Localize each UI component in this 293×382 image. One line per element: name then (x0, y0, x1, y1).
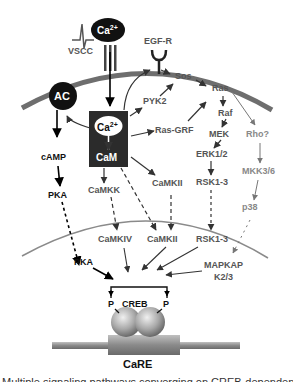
pka-nuclear-label: PKA (74, 258, 93, 267)
raf-label: Raf (218, 109, 233, 118)
cam-label: CaM (96, 153, 117, 163)
camp-label: cAMP (41, 153, 66, 162)
ca-intracellular-text: Ca (97, 122, 110, 133)
p38-label: p38 (242, 203, 258, 212)
rsk-cytoplasm-label: RSK1-3 (196, 178, 228, 187)
ras-grf-label: Ras-GRF (155, 126, 194, 135)
camkiv-label: CaMKIV (98, 235, 132, 244)
ca-extracellular-text: Ca (97, 25, 110, 36)
creb-label: CREB (122, 300, 148, 309)
ras-label: Ras (212, 84, 229, 93)
erk-label: ERK1/2 (196, 150, 228, 159)
vscc-spike-icon (72, 24, 94, 48)
vscc-label: VSCC (68, 47, 93, 56)
ca-intracellular-label: Ca2+ (97, 121, 118, 133)
sos-label: Sos (175, 72, 192, 81)
creb-signaling-diagram: VSCC Ca2+ EGF-R AC Ca2+ CaM cAMP PKA PYK… (0, 0, 293, 382)
ac-label: AC (54, 91, 70, 102)
care-label: CaRE (123, 359, 152, 370)
ca-intracellular-charge: 2+ (110, 121, 118, 128)
phospho-left-label: P (108, 300, 114, 309)
phosphorylation-bracket (111, 287, 167, 298)
egfr-label: EGF-R (144, 37, 172, 46)
mkk-label: MKK3/6 (242, 167, 275, 176)
care-box (108, 335, 180, 355)
camkii-nuclear-label: CaMKII (147, 235, 178, 244)
figure-caption-clipped: Multiple signaling pathways converging o… (2, 376, 293, 382)
camkii-cytoplasm-label: CaMKII (152, 179, 183, 188)
rsk-nuclear-label: RSK1-3 (196, 235, 228, 244)
ca-extracellular-charge: 2+ (110, 24, 118, 31)
mek-label: MEK (209, 130, 229, 139)
pyk2-label: PYK2 (143, 97, 167, 106)
phospho-right-label: P (163, 300, 169, 309)
ca-extracellular-label: Ca2+ (97, 24, 118, 36)
creb-monomer-right (135, 307, 165, 337)
diagram-graphics (0, 0, 293, 382)
pka-cytoplasm-label: PKA (48, 191, 67, 200)
egfr-receptor-icon (152, 50, 166, 60)
mapkap-label-line1: MAPKAP (204, 261, 243, 270)
nuclear-envelope (22, 221, 268, 258)
rho-label: Rho? (246, 130, 269, 139)
mapkap-label-line2: K2/3 (214, 273, 233, 282)
camkk-label: CaMKK (88, 186, 120, 195)
